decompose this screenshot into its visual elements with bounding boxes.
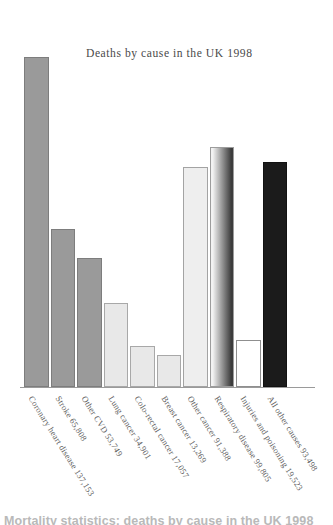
bar-other-cvd <box>77 258 102 387</box>
bar-coronary-heart-disease <box>24 57 49 387</box>
bar-colo-rectal-cancer <box>130 346 155 387</box>
bar-breast-cancer <box>157 355 182 387</box>
x-axis-label-all-other-causes: All other causes 93,498 <box>265 394 320 473</box>
chart-figure: Deaths by cause in the UK 1998 Coronary … <box>0 0 333 525</box>
bar-respiratory-disease <box>210 147 235 387</box>
bar-lung-cancer <box>104 303 129 387</box>
category-labels: Coronary heart disease 137,153Stroke 65,… <box>0 388 333 525</box>
figure-caption: Mortality statistics: deaths by cause in… <box>4 514 333 525</box>
bar-other-cancer <box>183 167 208 387</box>
bars-layer <box>0 0 333 388</box>
plot-area: Deaths by cause in the UK 1998 <box>0 0 333 390</box>
bar-injuries-and-poisoning <box>236 340 261 387</box>
bar-all-other-causes <box>263 162 288 387</box>
bar-stroke <box>51 229 76 387</box>
